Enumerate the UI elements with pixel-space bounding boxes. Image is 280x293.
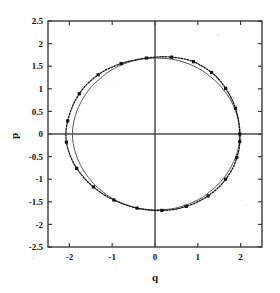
data-marker bbox=[192, 60, 195, 63]
y-tick-label: 0 bbox=[39, 129, 44, 139]
data-marker bbox=[185, 205, 188, 208]
data-marker bbox=[238, 132, 241, 135]
data-marker bbox=[224, 87, 227, 90]
y-tick-label: 1.5 bbox=[32, 61, 44, 71]
x-tick-label: -1 bbox=[108, 252, 116, 262]
data-marker bbox=[210, 71, 213, 74]
x-tick-label: -2 bbox=[66, 252, 74, 262]
x-axis-title: q bbox=[152, 271, 159, 283]
data-marker bbox=[224, 178, 227, 181]
data-marker bbox=[206, 194, 209, 197]
y-tick-label: -2 bbox=[36, 220, 44, 230]
zero-axis-lines bbox=[48, 21, 262, 247]
data-marker bbox=[66, 119, 69, 122]
data-marker bbox=[238, 140, 241, 143]
data-marker bbox=[135, 207, 138, 210]
y-tick-label: 2 bbox=[39, 39, 44, 49]
y-tick-label: 2.5 bbox=[32, 16, 44, 26]
data-marker bbox=[96, 73, 99, 76]
y-axis-title: p bbox=[8, 133, 20, 139]
data-marker bbox=[170, 56, 173, 59]
y-tick-label: 0.5 bbox=[32, 107, 44, 117]
x-tick-label: 0 bbox=[153, 252, 158, 262]
data-marker bbox=[112, 198, 115, 201]
y-tick-label: -2.5 bbox=[29, 242, 44, 252]
data-marker bbox=[145, 56, 148, 59]
data-marker bbox=[75, 167, 78, 170]
y-tick-label: 1 bbox=[39, 84, 44, 94]
data-marker bbox=[234, 107, 237, 110]
y-tick-label: -0.5 bbox=[29, 152, 44, 162]
x-tick-label: 2 bbox=[238, 252, 243, 262]
x-axis-tick-labels: -2-1012 bbox=[66, 252, 244, 262]
y-tick-label: -1.5 bbox=[29, 197, 44, 207]
data-marker bbox=[120, 62, 123, 65]
x-tick-label: 1 bbox=[196, 252, 201, 262]
data-marker bbox=[235, 156, 238, 159]
data-marker bbox=[78, 92, 81, 95]
data-marker bbox=[65, 141, 68, 144]
y-tick-label: -1 bbox=[36, 174, 44, 184]
phase-space-chart: -2-1012 2.521.510.50-0.5-1-1.5-2-2.5 q p bbox=[0, 0, 280, 293]
data-marker bbox=[92, 185, 95, 188]
y-axis-tick-labels: 2.521.510.50-0.5-1-1.5-2-2.5 bbox=[29, 16, 44, 252]
data-marker bbox=[160, 209, 163, 212]
